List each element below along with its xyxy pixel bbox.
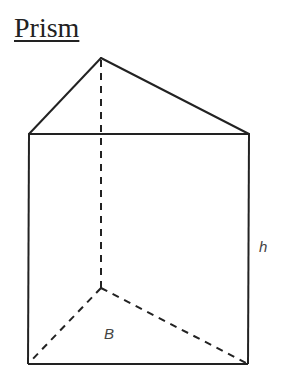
top-edge-right [101,58,249,134]
top-edge-left [29,58,101,134]
prism-diagram: h B [0,0,283,386]
base-label: B [104,325,114,342]
top-face [29,58,249,134]
hidden-edge-bottom-right [101,288,248,364]
height-label: h [259,238,267,255]
front-edge-right [248,134,249,364]
hidden-edges [28,60,248,364]
hidden-edge-bottom-left [28,288,101,364]
front-edge-left [28,134,29,364]
